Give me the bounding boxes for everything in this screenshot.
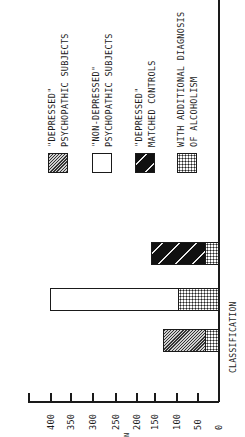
tick-top [28,393,30,402]
tick-100 [176,393,178,402]
legend-label-3b: MATCHED CONTROLS [147,60,157,147]
tick-350 [70,393,72,402]
value-axis-title: N [123,432,131,437]
tick-label-400: 400 [46,414,56,430]
legend-swatch-depressed-psychopathic [48,153,68,173]
bar-depressed-psychopathic-alcoholism [205,329,219,352]
legend-swatch-non-depressed-psychopathic [92,153,112,173]
bar-depressed-psychopathic [163,329,207,352]
tick-250 [115,393,117,402]
legend-label-2b: PSYCHOPATHIC SUBJECTS [104,33,114,147]
tick-label-200: 200 [132,414,142,430]
tick-label-100: 100 [172,414,182,430]
value-axis-line [28,401,219,403]
tick-0 [218,393,220,402]
legend-label-4a: WITH ADDITIONAL DIAGNOSIS [176,12,186,147]
tick-label-300: 300 [88,414,98,430]
tick-300 [92,393,94,402]
legend-swatch-alcoholism [177,153,197,173]
legend-label-1b: PSYCHOPATHIC SUBJECTS [60,33,70,147]
legend-label-1a: "DEPRESSED" [47,87,57,147]
legend-label-3a: "DEPRESSED" [134,87,144,147]
bar-non-depressed-psychopathic [50,288,179,311]
bar-depressed-matched-controls-alcoholism [205,242,219,265]
tick-label-250: 250 [111,414,121,430]
tick-200 [136,393,138,402]
tick-label-0: 0 [214,425,224,430]
tick-400 [50,393,52,402]
bar-depressed-matched-controls [151,242,207,265]
tick-label-350: 350 [66,414,76,430]
bar-non-depressed-psychopathic-alcoholism [178,288,219,311]
legend-swatch-depressed-controls [135,153,155,173]
tick-label-50: 50 [193,419,203,430]
category-axis-title: CLASSIFICATION [229,301,238,373]
legend-label-4b: OF ALCOHOLISM [189,77,199,147]
legend-label-2a: "NON-DEPRESSED" [91,66,101,147]
tick-50 [197,393,199,402]
tick-150 [154,393,156,402]
tick-label-150: 150 [150,414,160,430]
